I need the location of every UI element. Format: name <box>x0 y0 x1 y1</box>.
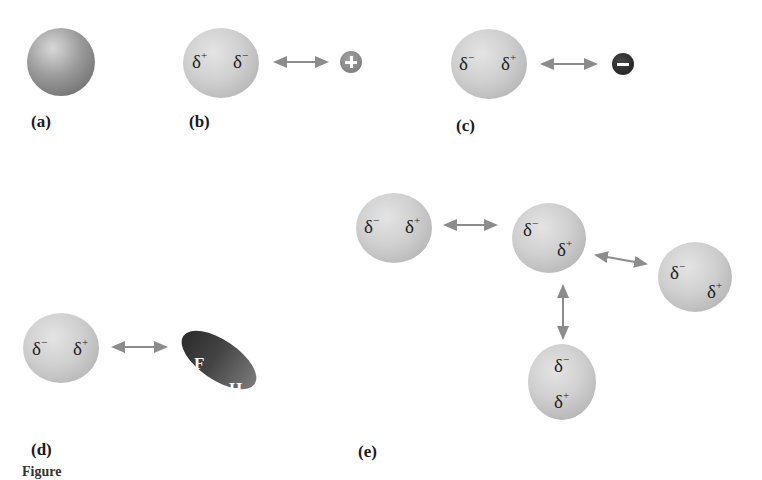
nonpolar-atom <box>27 28 95 96</box>
charge-label: δ− <box>233 52 248 71</box>
panel-label-e: (e) <box>358 442 377 462</box>
charge-label: δ− <box>459 54 474 73</box>
panel-label-d: (d) <box>31 440 52 460</box>
charge-label: δ+ <box>192 52 207 71</box>
charge-label: δ+ <box>557 240 572 259</box>
atom-f-label: F <box>194 354 204 374</box>
charge-label: δ− <box>554 356 569 375</box>
charge-label: δ− <box>523 220 538 239</box>
charge-label: δ+ <box>405 217 420 236</box>
charge-label: δ+ <box>707 282 722 301</box>
charge-label: δ− <box>670 263 685 282</box>
atom-h-label: H <box>229 379 242 399</box>
arrow-e2 <box>596 255 646 264</box>
anion-icon <box>612 53 634 75</box>
charge-label: δ+ <box>554 392 569 411</box>
panel-label-c: (c) <box>456 116 475 136</box>
cation-icon <box>340 51 362 73</box>
charge-label: δ+ <box>501 54 516 73</box>
charge-label: δ− <box>32 339 47 358</box>
figure-caption: Figure <box>22 464 61 480</box>
charge-label: δ− <box>364 217 379 236</box>
charge-label: δ+ <box>73 339 88 358</box>
panel-label-a: (a) <box>31 112 51 132</box>
panel-label-b: (b) <box>189 112 210 132</box>
